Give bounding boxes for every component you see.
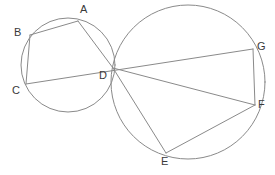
segment-AB <box>30 21 78 35</box>
geometry-diagram: A B C D E F G <box>0 0 275 175</box>
point-label-E: E <box>161 156 168 167</box>
right-circle <box>111 5 265 159</box>
point-label-D: D <box>99 70 107 81</box>
segment-DF <box>113 68 255 105</box>
segment-CG <box>26 49 253 84</box>
segments-group <box>26 21 255 153</box>
geometry-canvas <box>0 0 275 175</box>
segment-DE <box>113 68 166 153</box>
point-label-F: F <box>258 99 265 110</box>
left-circle <box>21 18 115 112</box>
segment-EF <box>166 105 255 153</box>
segment-AD <box>78 21 113 68</box>
point-label-G: G <box>257 41 266 52</box>
segment-FG <box>253 49 255 105</box>
circles-group <box>21 5 265 159</box>
point-label-A: A <box>80 4 87 15</box>
point-label-B: B <box>14 27 21 38</box>
point-label-C: C <box>12 85 20 96</box>
